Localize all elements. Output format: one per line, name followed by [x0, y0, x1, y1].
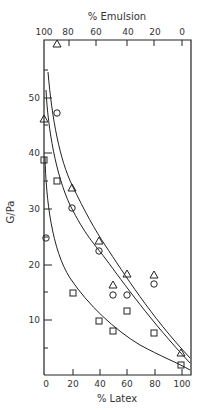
top-tick-label: 100 — [35, 27, 52, 37]
top-tick-labels: 100 80 60 40 20 0 — [35, 27, 185, 37]
series-triangles — [40, 40, 185, 356]
top-axis-title: % Emulsion — [88, 11, 146, 22]
bottom-tick-label: 60 — [121, 379, 133, 389]
bottom-tick-label: 80 — [149, 379, 161, 389]
plot-frame — [44, 40, 191, 375]
bottom-tick-label: 0 — [43, 379, 49, 389]
upper-curve — [48, 72, 190, 358]
top-tick-label: 60 — [90, 27, 102, 37]
bottom-tick-label: 40 — [94, 379, 106, 389]
bottom-axis-title: % Latex — [97, 393, 137, 404]
top-tick-label: 80 — [62, 27, 74, 37]
top-tick-label: 40 — [122, 27, 134, 37]
bottom-tick-labels: 0 20 40 60 80 100 — [43, 379, 191, 389]
middle-curve — [46, 90, 190, 363]
chart-canvas: % Emulsion 100 80 60 40 20 0 0 20 40 60 … — [0, 0, 203, 413]
y-tick-label: 20 — [29, 260, 41, 270]
y-tick-label: 40 — [29, 148, 41, 158]
y-tick-label: 30 — [29, 204, 41, 214]
bottom-ticks — [73, 369, 182, 375]
y-axis-title: G/Pa — [5, 201, 16, 224]
left-tick-labels: 10 20 30 40 50 — [29, 93, 41, 325]
y-tick-label: 50 — [29, 93, 41, 103]
top-tick-label: 20 — [149, 27, 161, 37]
y-tick-label: 10 — [29, 315, 41, 325]
bottom-tick-label: 100 — [173, 379, 190, 389]
series-circles — [43, 110, 157, 298]
bottom-tick-label: 20 — [67, 379, 79, 389]
top-tick-label: 0 — [179, 27, 185, 37]
top-ticks — [69, 40, 182, 46]
